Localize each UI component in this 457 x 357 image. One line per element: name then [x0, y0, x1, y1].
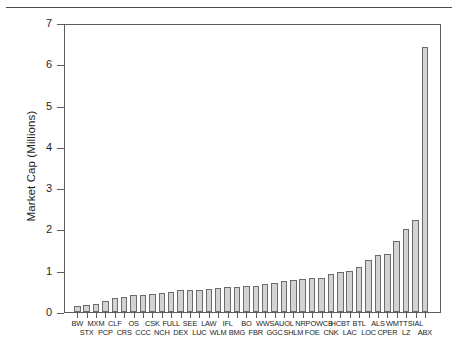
bar	[102, 301, 109, 312]
x-axis-tick	[256, 313, 257, 318]
x-axis-tick	[162, 313, 163, 318]
x-axis-tick-label: WLM	[210, 328, 227, 337]
x-axis-tick-label: LAW	[201, 319, 216, 328]
bar	[375, 255, 382, 312]
bar	[224, 287, 231, 312]
x-axis-tick-label: FULL	[162, 319, 179, 328]
x-axis-tick-label: NRP	[295, 319, 310, 328]
bar	[187, 290, 194, 312]
x-axis-tick	[199, 313, 200, 318]
y-axis-tick	[57, 272, 64, 273]
x-axis-tick-label: FOE	[305, 328, 320, 337]
x-axis-tick-label: OWCB	[310, 319, 332, 328]
y-axis-tick-label: 3	[6, 183, 52, 194]
x-axis-tick-label: SHLM	[283, 328, 303, 337]
x-axis-labels-row-bottom: STXPCPCRSCCCNCHDEXLUCWLMBMGFBRGGCSHLMFOE…	[64, 328, 441, 338]
bar	[346, 271, 353, 312]
x-axis-tick-label: CSK	[145, 319, 160, 328]
bar	[83, 305, 90, 312]
x-axis-tick	[134, 313, 135, 318]
x-axis-tick	[209, 313, 210, 318]
x-axis-tick-label: ALS	[371, 319, 385, 328]
x-axis-tick	[143, 313, 144, 318]
y-axis-tick	[57, 230, 64, 231]
x-axis-tick	[105, 313, 106, 318]
x-axis-tick	[331, 313, 332, 318]
x-axis-tick-label: CPER	[377, 328, 397, 337]
y-axis-tick	[57, 24, 64, 25]
bar	[281, 281, 288, 312]
x-axis-tick-label: AUOL	[274, 319, 294, 328]
bar	[365, 260, 372, 312]
x-axis-tick-label: CCC	[135, 328, 151, 337]
x-axis-tick	[312, 313, 313, 318]
x-axis-tick	[387, 313, 388, 318]
x-axis-tick-label: BTL	[353, 319, 366, 328]
bar	[318, 278, 325, 312]
bar	[196, 290, 203, 312]
x-axis-tick-label: LAC	[343, 328, 357, 337]
x-axis-tick-label: BMG	[229, 328, 245, 337]
y-axis-tick-label: 7	[6, 18, 52, 29]
x-axis-tick	[190, 313, 191, 318]
bar	[309, 278, 316, 312]
bar	[299, 279, 306, 312]
x-axis-tick	[115, 313, 116, 318]
x-axis-tick	[265, 313, 266, 318]
y-axis-tick-label: 6	[6, 59, 52, 70]
x-axis-tick-label: LUC	[192, 328, 206, 337]
bar	[74, 306, 81, 312]
x-axis-tick-label: CNK	[323, 328, 338, 337]
x-axis-tick	[369, 313, 370, 318]
y-axis-tick-label: 4	[6, 142, 52, 153]
y-axis: 01234567	[0, 0, 64, 357]
bar	[412, 220, 419, 312]
x-axis-tick	[218, 313, 219, 318]
bar	[393, 241, 400, 312]
y-axis-tick	[57, 148, 64, 149]
bar	[253, 286, 260, 312]
bar	[384, 254, 391, 312]
x-axis-tick	[181, 313, 182, 318]
x-axis-tick-label: BO	[241, 319, 251, 328]
x-axis-tick	[416, 313, 417, 318]
x-axis-tick-label: FBR	[249, 328, 263, 337]
bar	[243, 286, 250, 312]
bar	[403, 229, 410, 312]
x-axis-tick	[237, 313, 238, 318]
x-axis-tick-label: SEE	[183, 319, 197, 328]
y-axis-tick-label: 5	[6, 101, 52, 112]
x-axis-tick-label: GGC	[266, 328, 282, 337]
x-axis-tick	[77, 313, 78, 318]
x-axis-tick	[303, 313, 304, 318]
x-axis-tick	[124, 313, 125, 318]
bar	[112, 298, 119, 312]
x-axis-tick-label: WMTT	[386, 319, 408, 328]
x-axis-tick	[406, 313, 407, 318]
x-axis-tick	[284, 313, 285, 318]
bar	[206, 289, 213, 312]
bar	[168, 292, 175, 312]
x-axis-tick-label: MXM	[88, 319, 105, 328]
x-axis-tick	[275, 313, 276, 318]
x-axis-tick-label: NCH	[154, 328, 170, 337]
x-axis-tick	[397, 313, 398, 318]
x-axis-tick-label: DEX	[173, 328, 188, 337]
bar	[130, 295, 137, 312]
bar	[140, 295, 147, 312]
x-axis-tick-label: CRS	[117, 328, 132, 337]
x-axis-tick	[152, 313, 153, 318]
x-axis-tick-label: HCBT	[331, 319, 351, 328]
bar	[121, 297, 128, 312]
bar	[422, 47, 429, 312]
x-axis-tick-label: LOC	[361, 328, 376, 337]
x-axis-tick	[425, 313, 426, 318]
bar	[290, 280, 297, 312]
y-axis-tick-label: 0	[6, 307, 52, 318]
bar	[337, 272, 344, 312]
x-axis-tick-label: LZ	[402, 328, 410, 337]
bar	[328, 274, 335, 312]
x-axis-tick	[378, 313, 379, 318]
x-axis-tick	[350, 313, 351, 318]
bar	[177, 290, 184, 312]
